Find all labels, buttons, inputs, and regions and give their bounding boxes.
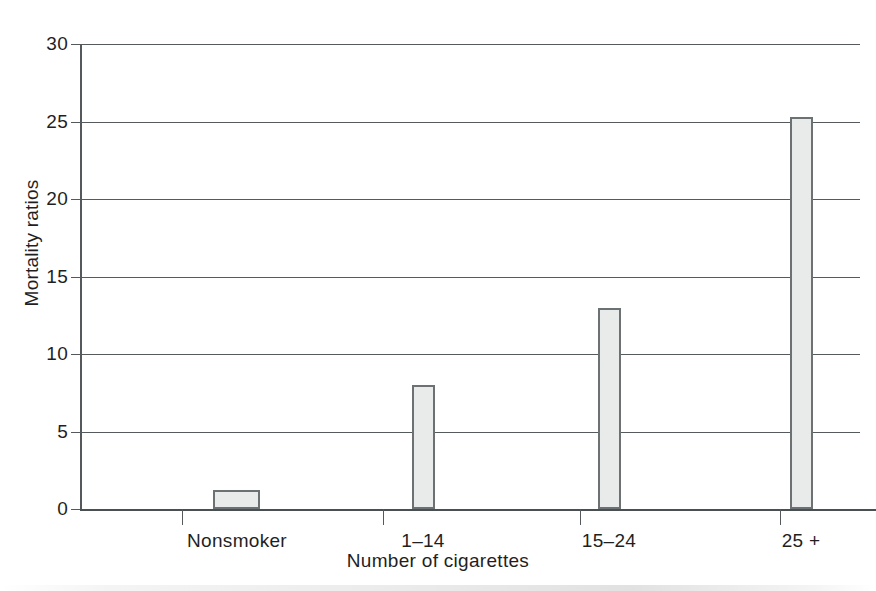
- y-tick-label: 10: [46, 343, 68, 365]
- gridline: [80, 432, 860, 433]
- y-tick-label: 30: [46, 33, 68, 55]
- gridline: [80, 354, 860, 355]
- gridline: [80, 199, 860, 200]
- plot-area: 302520151050 Nonsmoker1–1415–2425 +: [80, 44, 860, 509]
- bar: [790, 117, 813, 509]
- x-tick-label: 1–14: [401, 530, 444, 552]
- gridline: [80, 44, 860, 45]
- y-tick-label: 0: [57, 498, 68, 520]
- x-tick-label: Nonsmoker: [187, 530, 287, 552]
- bar: [598, 308, 621, 510]
- y-tick-mark: [71, 44, 80, 45]
- y-tick-label: 5: [57, 421, 68, 443]
- y-tick-mark: [71, 199, 80, 200]
- gridline: [80, 277, 860, 278]
- gridline: [80, 122, 860, 123]
- x-tick-mark: [580, 509, 581, 525]
- x-axis-title: Number of cigarettes: [0, 550, 876, 572]
- bar: [213, 490, 260, 509]
- y-axis-title: Mortality ratios: [21, 143, 43, 343]
- x-tick-mark: [780, 509, 781, 525]
- scan-edge-artifact: [0, 585, 876, 591]
- x-axis-baseline: [80, 509, 876, 511]
- y-tick-mark: [71, 509, 80, 510]
- x-tick-label: 25 +: [782, 530, 821, 552]
- y-tick-label: 20: [46, 188, 68, 210]
- y-tick-label: 15: [46, 266, 68, 288]
- x-tick-label: 15–24: [582, 530, 636, 552]
- bar: [412, 385, 435, 509]
- y-tick-mark: [71, 277, 80, 278]
- x-tick-mark: [182, 509, 183, 525]
- x-tick-mark: [383, 509, 384, 525]
- y-tick-mark: [71, 432, 80, 433]
- y-tick-label: 25: [46, 111, 68, 133]
- bar-chart-figure: Mortality ratios 302520151050 Nonsmoker1…: [0, 0, 876, 591]
- y-tick-mark: [71, 354, 80, 355]
- y-tick-mark: [71, 122, 80, 123]
